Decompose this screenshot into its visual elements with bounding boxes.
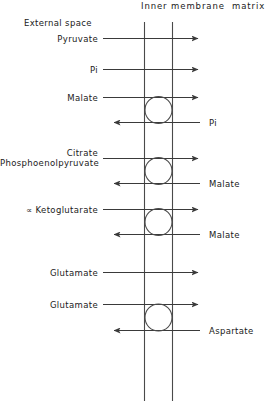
- inner-membrane-lines: [145, 22, 173, 401]
- transport-arrows: [103, 39, 200, 331]
- label-glutamate-in-2: Glutamate: [0, 300, 98, 310]
- label-malate-in: Malate: [0, 93, 98, 103]
- label-pi-out: Pi: [209, 118, 217, 128]
- label-ketoglutarate-in: ∝ Ketoglutarate: [0, 205, 98, 215]
- label-pyruvate-in: Pyruvate: [0, 34, 98, 44]
- label-aspartate-out: Aspartate: [209, 326, 254, 336]
- label-malate-out-1: Malate: [209, 179, 240, 189]
- label-glutamate-in-1: Glutamate: [0, 268, 98, 278]
- header-external-space: External space: [24, 18, 92, 28]
- header-matrix: matrix: [232, 1, 265, 11]
- carrier-circle-oxoglutarate: [145, 209, 172, 236]
- membrane-transport-diagram: Inner membrane matrix External space Pyr…: [0, 0, 269, 407]
- carrier-circles: [145, 97, 172, 332]
- diagram-canvas: [0, 0, 269, 407]
- label-phosphoenolpyruvate-in: Phosphoenolpyruvate: [0, 158, 98, 168]
- carrier-circle-tricarboxylate: [145, 158, 172, 185]
- label-citrate-in: Citrate: [0, 148, 98, 158]
- carrier-circle-glutamate-aspartate: [145, 304, 172, 331]
- carrier-circle-dicarboxylate: [145, 97, 172, 124]
- header-inner-membrane: Inner membrane: [141, 1, 225, 11]
- label-pi-in: Pi: [0, 65, 98, 75]
- label-malate-out-2: Malate: [209, 230, 240, 240]
